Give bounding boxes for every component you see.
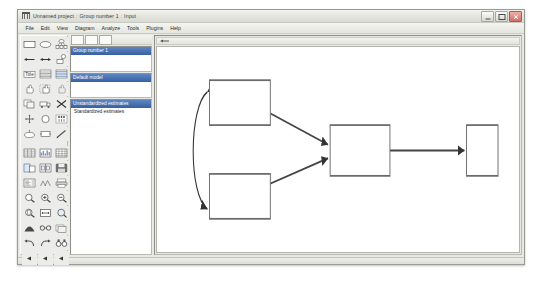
status-bar: [18, 257, 524, 264]
tool-draw-latent-with-indicators[interactable]: [54, 37, 69, 51]
estimates-panel-body: Standardized estimates: [71, 108, 151, 254]
observed-variable-top-left[interactable]: [209, 80, 270, 125]
toolbox-palette: Title: [20, 35, 68, 255]
close-button[interactable]: [509, 11, 522, 22]
tool-draw-observed-variable[interactable]: [22, 37, 37, 51]
tool-bayesian-estimation[interactable]: [22, 221, 37, 235]
observed-variable-bottom-left[interactable]: [209, 174, 270, 219]
model-panel: Default model: [70, 73, 152, 98]
list-item-standardized-estimates[interactable]: Standardized estimates: [73, 109, 149, 116]
amos-app-icon: [22, 12, 30, 20]
menu-bar: File Edit View Diagram Analyze Tools Plu…: [18, 23, 524, 34]
menu-item-view[interactable]: View: [53, 24, 71, 33]
tool-undo[interactable]: [22, 236, 37, 250]
diagram-canvas-container: [154, 35, 522, 255]
toolbox-spacer-1: [22, 142, 69, 145]
group-panel: Group number 1: [70, 46, 152, 72]
tool-object-properties[interactable]: [54, 146, 69, 160]
tool-zoom-in[interactable]: [38, 191, 53, 205]
menu-item-tools[interactable]: Tools: [124, 24, 143, 33]
window-controls: [481, 11, 522, 22]
tool-zoom-page[interactable]: [22, 206, 37, 220]
estimates-panel-header[interactable]: Unstandardized estimates: [71, 100, 151, 108]
tool-duplicate-objects[interactable]: [22, 97, 37, 111]
path-n2-to-n3[interactable]: [270, 158, 328, 183]
tool-scroll-left-1[interactable]: [22, 251, 37, 265]
tool-figure-caption[interactable]: Title: [22, 67, 37, 81]
tool-scroll-diagram[interactable]: [38, 127, 53, 141]
tool-save-diagram[interactable]: [54, 161, 69, 175]
estimates-panel: Unstandardized estimates Standardized es…: [70, 99, 152, 255]
tool-reflect-indicators[interactable]: [54, 112, 69, 126]
tool-move-objects[interactable]: [38, 97, 53, 111]
tool-draw-path[interactable]: [22, 52, 37, 66]
tool-deselect-all-objects[interactable]: [54, 82, 69, 96]
tool-multiple-group-glasses[interactable]: [38, 221, 53, 235]
tool-scroll-left-2[interactable]: [38, 251, 53, 265]
matrix-view-icon-3[interactable]: [99, 35, 112, 45]
canvas-toolstrip: [156, 37, 520, 45]
tool-move-parameter-values[interactable]: [22, 127, 37, 141]
window-title-project: Unnamed project: [33, 12, 74, 20]
menu-item-help[interactable]: Help: [167, 24, 185, 33]
tool-scroll-left-3[interactable]: [54, 251, 69, 265]
tool-add-unique-variable[interactable]: [54, 52, 69, 66]
tool-fit-to-page[interactable]: [38, 206, 53, 220]
window-title-group: Group number 1: [79, 12, 118, 20]
tool-list-variables-in-model[interactable]: [38, 67, 53, 81]
side-panel-column: Group number 1 Default model Unstandardi…: [70, 35, 152, 255]
menu-item-analyze[interactable]: Analyze: [98, 24, 123, 33]
tool-loupe[interactable]: [54, 206, 69, 220]
tool-print-preview[interactable]: [54, 221, 69, 235]
maximize-button[interactable]: [495, 11, 508, 22]
tool-print-diagram[interactable]: [54, 176, 69, 190]
path-n1-to-n3[interactable]: [270, 113, 328, 144]
group-panel-header[interactable]: Group number 1: [71, 47, 151, 55]
tool-select-data-file[interactable]: [22, 146, 37, 160]
tool-view-text-output[interactable]: [22, 176, 37, 190]
tool-list-variables-in-dataset[interactable]: [54, 67, 69, 81]
tool-redo[interactable]: [38, 236, 53, 250]
tool-change-shape-of-objects[interactable]: [22, 112, 37, 126]
model-panel-body[interactable]: [71, 82, 151, 97]
window-body: Title: [18, 34, 524, 257]
tool-preserve-symmetries[interactable]: [38, 161, 53, 175]
covariance-n1-n2[interactable]: [193, 92, 207, 209]
menu-item-edit[interactable]: Edit: [37, 24, 53, 33]
matrix-view-icon-2[interactable]: [85, 35, 98, 45]
menu-item-diagram[interactable]: Diagram: [71, 24, 98, 33]
path-diagram: [157, 47, 519, 252]
path-arrow-icon: [159, 38, 170, 44]
tool-select-one-object[interactable]: [22, 82, 37, 96]
group-panel-body[interactable]: [71, 55, 151, 71]
tool-erase-objects[interactable]: [54, 97, 69, 111]
model-panel-header[interactable]: Default model: [71, 74, 151, 82]
menu-item-file[interactable]: File: [22, 24, 37, 33]
tool-zoom-out[interactable]: [54, 191, 69, 205]
toolbox-grid: Title: [22, 37, 66, 265]
tool-draw-covariance[interactable]: [38, 52, 53, 66]
tool-search[interactable]: [54, 236, 69, 250]
tool-select-all-objects[interactable]: [38, 82, 53, 96]
tool-rotate-indicators[interactable]: [38, 112, 53, 126]
amos-main-window: Unnamed project : Group number 1 : Input…: [17, 9, 525, 265]
tool-draw-unobserved-variable[interactable]: [38, 37, 53, 51]
window-title-mode: Input: [124, 12, 136, 20]
svg-text:Title: Title: [25, 72, 34, 77]
tool-zoom-select-area[interactable]: [22, 191, 37, 205]
menu-item-plugins[interactable]: Plugins: [143, 24, 167, 33]
tool-touch-up-variable[interactable]: [54, 127, 69, 141]
observed-variable-right[interactable]: [467, 125, 498, 176]
diagram-canvas[interactable]: [156, 46, 520, 253]
title-bar[interactable]: Unnamed project : Group number 1 : Input: [18, 10, 524, 23]
tool-analysis-properties[interactable]: [38, 146, 53, 160]
panel-toolstrip: [70, 35, 152, 45]
tool-drag-properties[interactable]: [22, 161, 37, 175]
observed-variable-middle[interactable]: [330, 125, 390, 176]
minimize-button[interactable]: [481, 11, 494, 22]
tool-multiple-group-analysis[interactable]: [38, 176, 53, 190]
matrix-view-icon-1[interactable]: [71, 35, 84, 45]
